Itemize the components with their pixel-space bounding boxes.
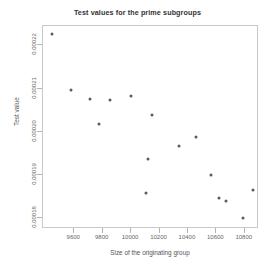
data-point bbox=[147, 158, 150, 161]
data-point bbox=[177, 145, 180, 148]
x-axis-label: Size of the originating group bbox=[42, 249, 258, 256]
x-axis-tick-label: 10800 bbox=[235, 234, 252, 240]
x-axis-tick bbox=[244, 228, 245, 233]
x-axis-tick bbox=[130, 228, 131, 233]
x-axis-tick bbox=[102, 228, 103, 233]
data-point bbox=[242, 217, 245, 220]
data-point bbox=[151, 114, 154, 117]
scatter-plot-figure: Test values for the prime subgroups 0.00… bbox=[0, 0, 275, 271]
data-points-layer bbox=[43, 26, 257, 227]
x-axis-tick-label: 10600 bbox=[207, 234, 224, 240]
y-axis-tick bbox=[37, 44, 42, 45]
x-axis-tick-label: 9600 bbox=[67, 234, 80, 240]
x-axis-tick-label: 10400 bbox=[179, 234, 196, 240]
y-axis-label: Test value bbox=[13, 97, 20, 126]
data-point bbox=[70, 89, 73, 92]
y-axis-tick bbox=[37, 217, 42, 218]
data-point bbox=[108, 98, 111, 101]
x-axis-tick-label: 9800 bbox=[95, 234, 108, 240]
y-axis-tick bbox=[37, 88, 42, 89]
x-axis-tick bbox=[159, 228, 160, 233]
data-point bbox=[194, 135, 197, 138]
x-axis-tick-label: 10000 bbox=[122, 234, 139, 240]
data-point bbox=[89, 97, 92, 100]
data-point bbox=[224, 200, 227, 203]
x-axis-tick bbox=[215, 228, 216, 233]
data-point bbox=[251, 188, 254, 191]
data-point bbox=[217, 197, 220, 200]
data-point bbox=[145, 191, 148, 194]
plot-area bbox=[42, 25, 258, 228]
data-point bbox=[98, 123, 101, 126]
data-point bbox=[210, 174, 213, 177]
x-axis-tick bbox=[187, 228, 188, 233]
data-point bbox=[130, 94, 133, 97]
data-point bbox=[50, 32, 53, 35]
x-axis-tick bbox=[73, 228, 74, 233]
y-axis-tick bbox=[37, 174, 42, 175]
chart-title: Test values for the prime subgroups bbox=[0, 8, 275, 17]
x-axis-tick-label: 10200 bbox=[150, 234, 167, 240]
y-axis-tick bbox=[37, 131, 42, 132]
